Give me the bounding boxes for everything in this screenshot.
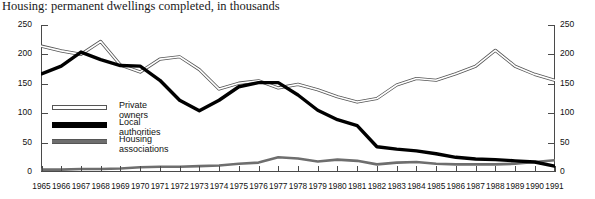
x-tick-mark	[81, 166, 82, 172]
x-tick-mark	[555, 166, 556, 172]
x-tick-mark	[120, 166, 121, 172]
x-tick-mark	[456, 166, 457, 172]
legend-swatch-local-authorities	[52, 122, 107, 128]
y-tick-label: 50	[560, 138, 590, 147]
y-tick-label: 100	[2, 108, 32, 117]
x-tick-mark	[259, 166, 260, 172]
x-tick-label: 1991	[542, 181, 568, 191]
legend-label-housing-associations: Housing associations	[119, 134, 169, 154]
y-tick-label: 200	[2, 49, 32, 58]
x-tick-mark	[101, 166, 102, 172]
x-tick-mark	[318, 166, 319, 172]
x-tick-mark	[495, 166, 496, 172]
y-tick-label: 250	[2, 20, 32, 29]
x-tick-mark	[377, 166, 378, 172]
chart-title: Housing: permanent dwellings completed, …	[2, 0, 280, 14]
legend-swatch-private-owners	[52, 105, 107, 110]
y-tick-label: 250	[560, 20, 590, 29]
chart-container: Housing: permanent dwellings completed, …	[0, 0, 595, 199]
y-tick-label: 50	[2, 138, 32, 147]
x-tick-mark	[180, 166, 181, 172]
legend-swatch-housing-associations	[52, 139, 107, 144]
x-tick-mark	[476, 166, 477, 172]
y-tick-label: 150	[2, 79, 32, 88]
x-tick-mark	[357, 166, 358, 172]
y-tick-label: 0	[560, 167, 590, 176]
series-line-private-owners	[42, 41, 555, 102]
y-tick-label: 0	[2, 167, 32, 176]
x-tick-mark	[42, 166, 43, 172]
x-tick-mark	[416, 166, 417, 172]
x-tick-mark	[199, 166, 200, 172]
y-tick-label: 200	[560, 49, 590, 58]
y-tick-label: 100	[560, 108, 590, 117]
x-tick-mark	[298, 166, 299, 172]
x-tick-mark	[219, 166, 220, 172]
x-tick-mark	[140, 166, 141, 172]
x-tick-mark	[337, 166, 338, 172]
x-tick-mark	[239, 166, 240, 172]
x-tick-mark	[515, 166, 516, 172]
x-tick-mark	[535, 166, 536, 172]
x-axis-labels: 1965196619671968196919701971197219731974…	[41, 181, 555, 195]
x-tick-mark	[436, 166, 437, 172]
x-tick-mark	[278, 166, 279, 172]
x-tick-mark	[397, 166, 398, 172]
y-tick-label: 150	[560, 79, 590, 88]
x-tick-mark	[160, 166, 161, 172]
series-line-private-owners-outline	[42, 41, 555, 102]
x-tick-mark	[61, 166, 62, 172]
